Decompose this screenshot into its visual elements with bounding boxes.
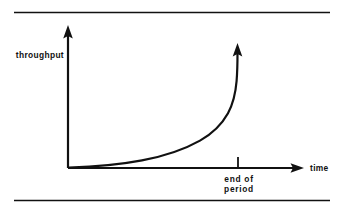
figure-container: throughput time end of period xyxy=(0,0,345,211)
throughput-vs-time-chart: throughput time end of period xyxy=(0,0,345,211)
y-axis-label: throughput xyxy=(16,50,64,60)
end-of-period-label-line2: period xyxy=(224,184,254,194)
x-axis-label: time xyxy=(310,163,329,173)
throughput-curve xyxy=(69,54,238,168)
end-of-period-label-line1: end of xyxy=(224,174,253,184)
